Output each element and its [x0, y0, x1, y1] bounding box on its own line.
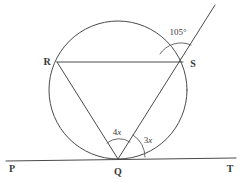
point-label-r: R: [43, 56, 51, 67]
point-label-t: T: [227, 163, 234, 174]
geometry-figure: P Q R S T 105° 4x 3x: [0, 0, 243, 183]
point-label-p: P: [9, 163, 15, 174]
point-label-q: Q: [114, 166, 122, 177]
geometry-canvas: P Q R S T 105° 4x 3x: [0, 0, 243, 183]
point-label-s: S: [190, 58, 196, 69]
angle-4x-variable: x: [116, 127, 121, 137]
angle-3x-variable: x: [147, 135, 152, 145]
chord-qr: [57, 62, 118, 159]
angle-label-4x: 4x: [113, 127, 122, 137]
angle-105-unit: °: [183, 27, 187, 37]
angle-105-value: 105: [169, 27, 183, 37]
angle-label-105: 105°: [169, 27, 187, 37]
angle-label-3x: 3x: [144, 135, 153, 145]
ray-qs-extended: [118, 5, 215, 159]
angle-arc-4x-at-q: [107, 139, 130, 143]
